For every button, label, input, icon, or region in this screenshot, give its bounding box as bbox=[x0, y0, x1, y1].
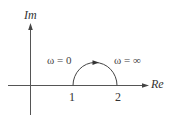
imaginary-axis-label: Im bbox=[24, 9, 37, 21]
tick-label-2: 2 bbox=[115, 91, 121, 103]
imaginary-axis-arrow-icon bbox=[28, 23, 33, 30]
omega-zero-label: ω = 0 bbox=[47, 55, 71, 66]
nyquist-curve bbox=[73, 63, 117, 86]
tick-label-1: 1 bbox=[69, 91, 75, 103]
real-axis-label: Re bbox=[151, 78, 164, 90]
real-axis-arrow-icon bbox=[142, 83, 149, 88]
direction-arrow-icon bbox=[93, 60, 100, 65]
omega-infinity-label: ω = ∞ bbox=[114, 55, 141, 66]
